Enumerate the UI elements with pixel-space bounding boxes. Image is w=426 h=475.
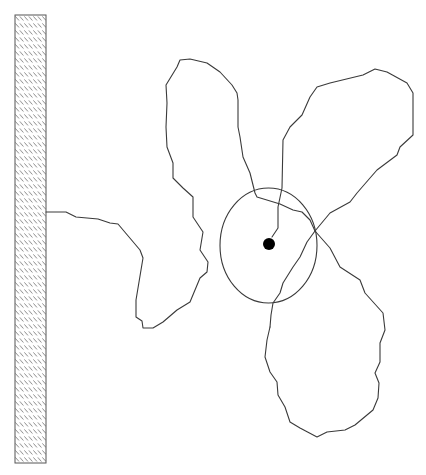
home-point xyxy=(263,238,275,250)
path-wall-to-left-lobe xyxy=(46,59,315,328)
trajectory-diagram xyxy=(0,0,426,475)
wall xyxy=(15,15,46,463)
path-right-upper-lobe xyxy=(272,69,413,237)
path-lower-lobe xyxy=(265,231,385,437)
